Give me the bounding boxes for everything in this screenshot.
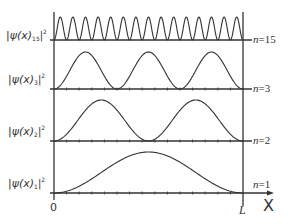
ylabel-n2-sub: 2 (34, 131, 38, 138)
ylabel-n3-main: |ψ(x) (8, 73, 34, 86)
ylabel-n2-main: |ψ(x) (8, 125, 34, 138)
ylabel-n3-sup: 2 (41, 72, 45, 79)
ylabel-n1-sup: 2 (41, 176, 45, 183)
curve-n3 (54, 52, 243, 89)
ylabel-n1-main: |ψ(x) (8, 177, 34, 190)
ylabel-n2: |ψ(x)2|2 (8, 124, 45, 138)
x-axis-start-label: 0 (50, 201, 57, 214)
nlabel-n3-eq: =3 (259, 82, 271, 94)
ylabel-n15-sub: 15 (32, 35, 40, 42)
ylabel-n15-main: |ψ(x) (6, 29, 32, 42)
ylabel-n1: |ψ(x)1|2 (8, 176, 45, 190)
ylabel-n3-sub: 3 (34, 79, 38, 86)
curve-n15 (54, 17, 243, 40)
x-axis-arrowhead (267, 191, 274, 196)
ylabel-n15: |ψ(x)15|2 (6, 28, 47, 42)
nlabel-n15: n=15 (253, 33, 276, 45)
nlabel-n1-eq: =1 (259, 178, 271, 190)
x-axis-label: X (263, 196, 274, 215)
ylabel-n3: |ψ(x)3|2 (8, 72, 45, 86)
ylabel-n1-sub: 1 (34, 183, 38, 190)
axes (50, 12, 270, 206)
curves (54, 17, 243, 193)
nlabel-n2-eq: =2 (259, 134, 271, 146)
nlabel-n1: n=1 (253, 178, 270, 190)
nlabel-n2: n=2 (253, 134, 270, 146)
curve-n1 (54, 152, 243, 193)
ylabel-n2-sup: 2 (41, 124, 45, 131)
ylabel-n15-sup: 2 (43, 28, 47, 35)
curve-n2 (54, 100, 243, 141)
nlabel-n3: n=3 (253, 82, 270, 94)
nlabel-n15-eq: =15 (259, 33, 276, 45)
x-axis-end-label: L (239, 203, 246, 218)
